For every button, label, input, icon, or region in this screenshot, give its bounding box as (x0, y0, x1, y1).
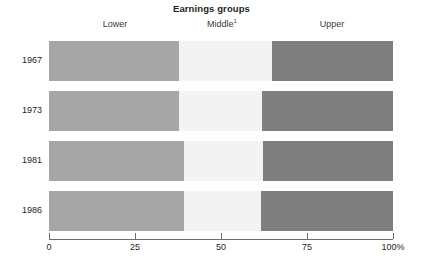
bar-segment-lower (49, 191, 184, 231)
x-axis-tick-label: 25 (130, 242, 140, 252)
chart-title: Earnings groups (0, 3, 423, 14)
year-label-1967: 1967 (22, 55, 42, 65)
bar-segment-upper (263, 141, 393, 181)
bar-row (49, 41, 393, 81)
x-axis-tick-label: 100% (381, 242, 404, 252)
x-axis-line (49, 239, 393, 240)
bar-row (49, 141, 393, 181)
group-header-upper: Upper (320, 19, 345, 29)
bar-segment-middle (184, 141, 263, 181)
group-header-middle: Middle1 (207, 19, 237, 29)
x-axis-tick-label: 75 (302, 242, 312, 252)
group-header-label: Middle (207, 19, 234, 29)
bar-segment-upper (261, 191, 393, 231)
x-axis-tick (307, 233, 308, 239)
x-axis-tick (135, 233, 136, 239)
group-header-label: Lower (103, 19, 128, 29)
stacked-bar-1986 (49, 191, 393, 231)
bar-segment-lower (49, 141, 184, 181)
bar-segment-middle (179, 41, 272, 81)
stacked-bar-1973 (49, 91, 393, 131)
footnote-marker: 1 (234, 18, 237, 24)
bar-row (49, 91, 393, 131)
bar-segment-upper (262, 91, 393, 131)
x-axis-tick-label: 0 (46, 242, 51, 252)
plot-area (49, 40, 393, 236)
stacked-bar-1967 (49, 41, 393, 81)
bar-segment-middle (179, 91, 262, 131)
stacked-bar-1981 (49, 141, 393, 181)
x-axis-tick (221, 233, 222, 239)
bar-segment-upper (272, 41, 393, 81)
chart-figure: Earnings groups LowerMiddle1Upper 196719… (0, 0, 423, 273)
group-header-label: Upper (320, 19, 345, 29)
group-header-lower: Lower (103, 19, 128, 29)
bar-segment-lower (49, 41, 179, 81)
bar-segment-middle (184, 191, 261, 231)
year-label-1981: 1981 (22, 155, 42, 165)
year-label-1986: 1986 (22, 205, 42, 215)
x-axis-tick (393, 233, 394, 239)
x-axis-tick (49, 233, 50, 239)
bar-segment-lower (49, 91, 179, 131)
year-label-1973: 1973 (22, 105, 42, 115)
bar-row (49, 191, 393, 231)
x-axis-tick-label: 50 (216, 242, 226, 252)
